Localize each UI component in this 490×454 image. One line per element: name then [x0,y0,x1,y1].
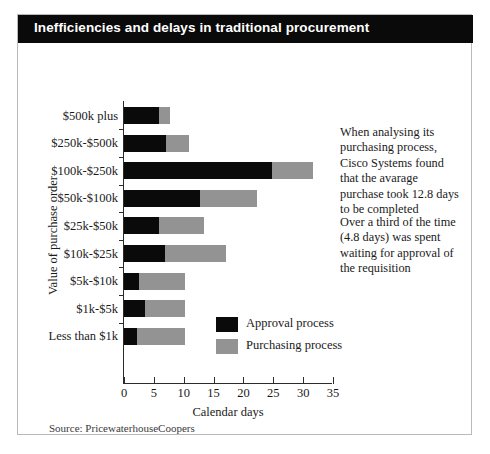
bar-segment-purchasing [166,135,189,152]
legend-swatch-purchasing-icon [216,339,238,354]
bar-segment-purchasing [137,328,185,345]
x-axis-tick [333,377,334,384]
bar-segment-purchasing [159,217,204,234]
bar-row [124,328,185,345]
category-label: $25k-$50k [20,219,118,233]
category-label: $100k-$250k [20,164,118,178]
x-axis-tick [184,377,185,384]
x-axis-tick-label: 20 [228,386,258,401]
legend-label-purchasing: Purchasing process [246,338,342,353]
category-label: $250k-$500k [20,136,118,150]
category-label: $1k-$5k [20,302,118,316]
y-axis-tick [119,157,124,158]
bar-segment-purchasing [200,190,257,207]
y-axis-tick [119,185,124,186]
category-label: $10k-$25k [20,247,118,261]
bar-segment-purchasing [145,300,184,317]
y-axis-tick [119,295,124,296]
bar-segment-purchasing [159,107,170,124]
x-axis-tick-label: 15 [199,386,229,401]
annotation-cisco-average: When analysing its purchasing process, C… [340,125,462,217]
bar-segment-approval [124,107,159,124]
category-label: $5k-$10k [20,274,118,288]
bar-segment-approval [124,217,159,234]
bar-segment-approval [124,245,165,262]
bar-row [124,162,313,179]
bar-segment-purchasing [165,245,227,262]
bar-row [124,190,257,207]
bar-row [124,217,204,234]
y-axis-tick [119,267,124,268]
x-axis-tick [273,377,274,384]
x-axis-tick [214,377,215,384]
x-axis-tick-label: 25 [258,386,288,401]
x-axis-tick-label: 5 [139,386,169,401]
bar-segment-approval [124,135,166,152]
x-axis-tick-label: 10 [169,386,199,401]
legend-swatch-approval-icon [216,317,238,332]
plot-area: Value of purchase order $500k plus$250k-… [18,43,473,436]
x-axis-tick [124,377,125,384]
bar-row [124,273,185,290]
y-axis-tick [119,240,124,241]
bar-row [124,107,170,124]
category-label: Less than $1k [20,329,118,343]
y-axis-tick [119,129,124,130]
x-axis-tick-label: 30 [288,386,318,401]
bar-segment-approval [124,300,145,317]
bar-row [124,300,185,317]
bar-row [124,245,226,262]
bar-segment-approval [124,328,137,345]
bar-segment-approval [124,273,139,290]
category-label: $500k plus [20,109,118,123]
bar-segment-purchasing [139,273,185,290]
bar-segment-approval [124,190,200,207]
x-axis-tick-label: 0 [109,386,139,401]
legend-label-approval: Approval process [246,316,334,331]
x-axis-title: Calendar days [123,405,333,420]
x-axis-tick [303,377,304,384]
x-axis-tick-label: 35 [318,386,348,401]
bar-segment-purchasing [272,162,313,179]
chart-title: Inefficiencies and delays in traditional… [34,20,369,35]
y-axis-tick [119,212,124,213]
chart-title-banner: Inefficiencies and delays in traditional… [18,15,473,43]
y-axis-tick [119,323,124,324]
x-axis-tick [243,377,244,384]
bar-segment-approval [124,162,272,179]
x-axis-tick [154,377,155,384]
bar-row [124,135,189,152]
source-note: Source: PricewaterhouseCoopers [49,422,195,434]
category-label: $50k-$100k [20,191,118,205]
figure-frame: Inefficiencies and delays in traditional… [17,14,472,435]
annotation-approval-wait: Over a third of the time (4.8 days) was … [340,215,462,277]
